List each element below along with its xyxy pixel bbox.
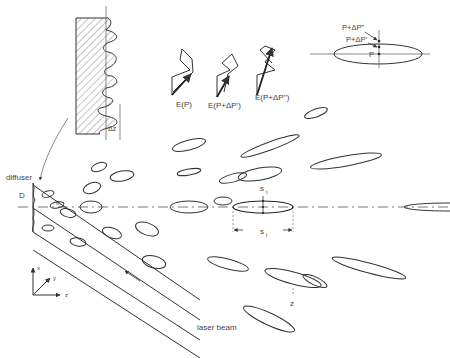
label-P: P	[369, 50, 374, 59]
diffuser-label: diffuser	[6, 173, 32, 182]
laser-beam: laser beam	[33, 185, 237, 358]
label-E-P1: E(P+ΔP')	[208, 101, 241, 110]
delta-z-label: Δz	[108, 125, 117, 132]
label-E-P: E(P)	[176, 100, 192, 109]
phasor-diagram-EP: E(P)	[172, 49, 193, 109]
speckle-point-inset: P+ΔP'' P+ΔP' P	[310, 23, 430, 68]
x-axis-label: x	[37, 265, 40, 271]
s-l-label: s	[260, 227, 264, 236]
coordinate-axes: x y z	[33, 265, 68, 298]
s-l-subscript: l	[266, 232, 267, 238]
s-t-subscript: t	[266, 189, 268, 195]
central-speckle: s t s l z	[233, 184, 294, 308]
label-P2: P+ΔP''	[342, 23, 365, 32]
diameter-label: D	[19, 191, 25, 200]
label-E-P2: E(P+ΔP'')	[255, 93, 290, 102]
s-t-label: s	[260, 184, 264, 193]
label-P1: P+ΔP'	[346, 35, 367, 44]
z-distance-label: z	[290, 299, 294, 308]
diffuser-profile-inset: Δz	[40, 6, 120, 180]
z-axis-label: z	[65, 292, 68, 298]
phasor-diagram-EP1: E(P+ΔP')	[208, 54, 241, 110]
speckle-field	[41, 105, 450, 336]
y-axis-label: y	[53, 275, 56, 281]
speckle-diagram: Δz E(P) E(P+ΔP') E(P+ΔP'') P+ΔP'' P+ΔP' …	[0, 0, 450, 358]
phasor-diagram-EP2: E(P+ΔP'')	[255, 46, 290, 102]
laser-beam-label: laser beam	[197, 323, 237, 332]
diffuser: diffuser D	[6, 173, 35, 232]
